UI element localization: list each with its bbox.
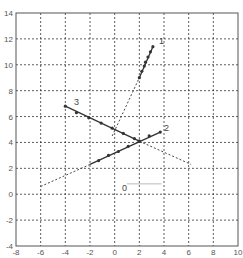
x-tick-label: -8: [12, 248, 20, 257]
x-tick-label: -4: [62, 248, 70, 257]
y-tick-label: 12: [4, 35, 13, 44]
data-point-marker: [64, 105, 67, 108]
plot-frame: [16, 13, 238, 246]
x-tick-label: 8: [211, 248, 216, 257]
y-tick-label: 10: [4, 61, 13, 70]
y-tick-label: 6: [9, 113, 14, 122]
series-label-1: 1: [159, 36, 164, 46]
data-point-marker: [144, 61, 147, 64]
x-tick-label: -2: [86, 248, 94, 257]
y-tick-label: 4: [9, 138, 14, 147]
data-point-marker: [111, 127, 114, 130]
data-point-marker: [122, 132, 125, 135]
x-tick-label: -6: [37, 248, 45, 257]
data-point-marker: [127, 145, 130, 148]
data-point-marker: [97, 159, 100, 162]
x-tick-label: 6: [186, 248, 191, 257]
series-label-0: 0: [122, 183, 127, 193]
data-point-marker: [87, 116, 90, 119]
line-chart: -8-6-4-20246810 -4-202468101214 0123: [0, 0, 243, 258]
data-point-marker: [146, 55, 149, 58]
y-tick-label: -4: [6, 242, 14, 251]
data-point-marker: [75, 111, 78, 114]
y-tick-label: 2: [9, 164, 14, 173]
y-tick-label: 8: [9, 87, 14, 96]
x-tick-label: 10: [234, 248, 243, 257]
data-point-marker: [138, 76, 141, 79]
series-2-dashed-line: [41, 164, 90, 186]
data-point-marker: [148, 134, 151, 137]
series-3-dashed-line: [139, 141, 191, 164]
y-axis-ticks: -4-202468101214: [4, 9, 13, 251]
y-tick-label: 0: [9, 190, 14, 199]
data-point-marker: [133, 137, 136, 140]
x-tick-label: 0: [112, 248, 117, 257]
x-tick-label: 2: [137, 248, 142, 257]
data-point-marker: [149, 50, 152, 53]
chart-series: [41, 45, 191, 186]
y-tick-label: -2: [6, 216, 14, 225]
data-point-marker: [100, 121, 103, 124]
series-1-dashed-line: [112, 78, 139, 136]
data-point-marker: [107, 154, 110, 157]
series-label-3: 3: [74, 97, 79, 107]
x-tick-label: 4: [162, 248, 167, 257]
data-point-marker: [143, 64, 146, 67]
data-point-marker: [138, 140, 141, 143]
x-axis-ticks: -8-6-4-20246810: [12, 248, 243, 257]
data-point-marker: [159, 130, 162, 133]
series-labels: 0123: [74, 36, 169, 192]
data-point-marker: [117, 150, 120, 153]
series-label-2: 2: [164, 123, 169, 133]
data-point-marker: [151, 45, 154, 48]
y-tick-label: 14: [4, 9, 13, 18]
grid-lines: [16, 13, 238, 246]
data-point-marker: [140, 70, 143, 73]
